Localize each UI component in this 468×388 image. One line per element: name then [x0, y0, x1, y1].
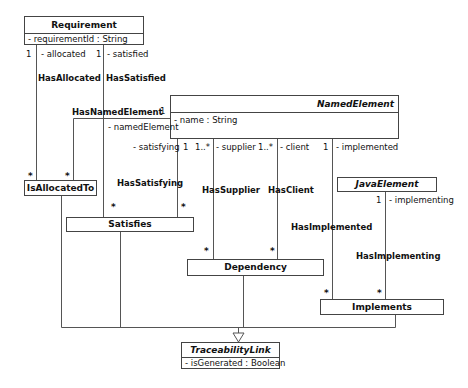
class-attribute: - isGenerated : Boolean [182, 358, 279, 369]
class-satisfies[interactable]: Satisfies [66, 217, 194, 232]
multiplicity-star: * [65, 172, 70, 181]
association-name: HasAllocated [38, 73, 101, 83]
role-label: - client [280, 142, 309, 152]
role-label: - supplier [216, 142, 256, 152]
class-traceability-link[interactable]: TraceabilityLink - isGenerated : Boolean [181, 342, 280, 369]
class-name: NamedElement [171, 96, 398, 113]
class-name: Satisfies [67, 218, 193, 234]
class-name: TraceabilityLink [182, 343, 279, 358]
association-name: HasImplemented [291, 222, 372, 232]
class-dependency[interactable]: Dependency [187, 259, 324, 276]
role-label: - satisfying [133, 142, 180, 152]
class-name: JavaElement [338, 178, 436, 194]
class-implements[interactable]: Implements [320, 299, 444, 315]
class-name: Requirement [25, 17, 143, 34]
association-name: HasImplementing [356, 251, 440, 261]
class-attribute: - requirementId : String [25, 34, 143, 45]
multiplicity-label: 1 [183, 142, 188, 152]
multiplicity-label: 1 [26, 49, 31, 59]
class-name: IsAllocatedTo [25, 181, 96, 197]
multiplicity-star: * [324, 289, 329, 298]
multiplicity-label: 1 [160, 106, 165, 116]
class-name: Dependency [188, 260, 323, 276]
class-java-element[interactable]: JavaElement [337, 177, 437, 192]
multiplicity-star: * [270, 247, 275, 256]
multiplicity-label: 1 [96, 49, 101, 59]
association-name: HasNamedElement [72, 107, 163, 117]
role-label: - implementing [389, 195, 454, 205]
role-label: - implemented [336, 142, 398, 152]
class-attribute: - name : String [171, 113, 398, 126]
multiplicity-label: 1 [376, 195, 381, 205]
association-name: HasSatisfied [106, 73, 166, 83]
class-name: Implements [321, 300, 443, 316]
role-label: - namedElement [108, 122, 178, 132]
multiplicity-star: * [204, 247, 209, 256]
role-label: - satisfied [107, 49, 149, 59]
class-named-element[interactable]: NamedElement - name : String [170, 95, 399, 139]
class-requirement[interactable]: Requirement - requirementId : String [24, 16, 144, 45]
multiplicity-star: * [181, 203, 186, 212]
association-name: HasSatisfying [117, 178, 183, 188]
multiplicity-star: * [111, 203, 116, 212]
multiplicity-label: 1 [323, 142, 328, 152]
multiplicity-star: * [377, 289, 382, 298]
role-label: - allocated [41, 49, 86, 59]
multiplicity-label: 1..* [195, 142, 210, 152]
association-name: HasClient [268, 185, 314, 195]
association-name: HasSupplier [202, 185, 260, 195]
multiplicity-star: * [28, 172, 33, 181]
multiplicity-label: 1..* [258, 142, 273, 152]
class-is-allocated-to[interactable]: IsAllocatedTo [24, 180, 97, 196]
generalization-arrowhead [233, 333, 244, 342]
